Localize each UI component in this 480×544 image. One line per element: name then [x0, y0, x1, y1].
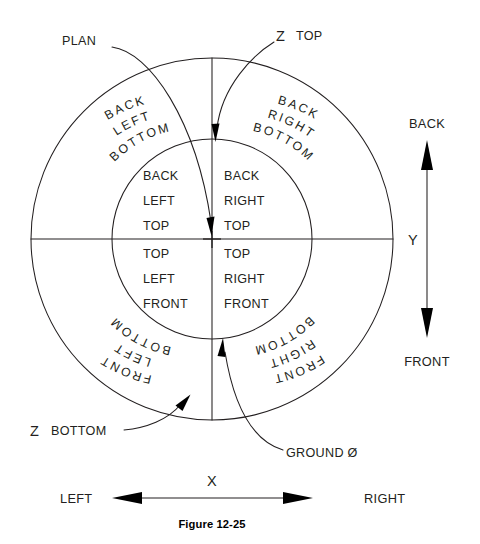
y-axis-arrowhead-up	[421, 140, 433, 170]
outer-quadrant-back-right-bottom: BACK RIGHT BOTTOM	[252, 93, 322, 164]
ground-zero-leader-arrowhead	[218, 338, 226, 357]
quadrant-line: RIGHT	[224, 194, 265, 208]
plan-leader-arrowhead	[207, 217, 215, 237]
figure-caption: Figure 12-25	[178, 518, 245, 530]
x-axis-right-label: RIGHT	[364, 491, 405, 506]
inner-quadrant-top-right-front: TOP RIGHT FRONT	[224, 247, 269, 311]
y-axis-letter: Y	[408, 232, 418, 248]
quadrant-line: TOP	[224, 219, 251, 233]
technical-diagram: PLAN Z TOP Z BOTTOM GROUND Ø BACK LEFT T…	[0, 0, 480, 544]
quadrant-line: LEFT	[143, 272, 175, 286]
x-axis-left-label: LEFT	[60, 491, 93, 506]
callout-z-top-letter: Z	[276, 28, 285, 44]
outer-quadrant-back-left-bottom: BACK LEFT BOTTOM	[102, 93, 172, 164]
x-axis-arrowhead-left	[112, 492, 142, 504]
quadrant-line: RIGHT	[224, 272, 265, 286]
callout-z-bottom-label: BOTTOM	[51, 424, 106, 438]
x-axis-indicator: LEFT RIGHT X	[60, 473, 405, 506]
y-axis-indicator: BACK FRONT Y	[404, 116, 450, 369]
y-axis-back-label: BACK	[409, 116, 445, 131]
callout-z-top-label: TOP	[296, 29, 323, 43]
inner-quadrant-top-left-front: TOP LEFT FRONT	[143, 247, 188, 311]
y-axis-front-label: FRONT	[404, 354, 450, 369]
quadrant-line: TOP	[143, 247, 170, 261]
quadrant-line: LEFT	[143, 194, 175, 208]
inner-quadrant-back-right-top: BACK RIGHT TOP	[224, 169, 265, 233]
callout-plan-label: PLAN	[62, 34, 96, 48]
x-axis-letter: X	[207, 473, 217, 489]
quadrant-line: BACK	[224, 169, 260, 183]
callout-z-bottom-letter: Z	[30, 423, 39, 439]
quadrant-line: TOP	[224, 247, 251, 261]
z-bottom-leader-line	[124, 404, 181, 430]
y-axis-arrowhead-down	[421, 308, 433, 338]
quadrant-line: FRONT	[143, 297, 188, 311]
callout-ground-zero-label: GROUND Ø	[286, 446, 358, 460]
quadrant-line: FRONT	[224, 297, 269, 311]
z-bottom-leader-arrowhead	[176, 395, 191, 412]
inner-quadrant-back-left-top: BACK LEFT TOP	[143, 169, 179, 233]
quadrant-line: TOP	[143, 219, 170, 233]
z-top-leader-line	[217, 42, 274, 128]
quadrant-line: BACK	[143, 169, 179, 183]
figure-container: PLAN Z TOP Z BOTTOM GROUND Ø BACK LEFT T…	[0, 0, 480, 544]
x-axis-arrowhead-right	[283, 492, 313, 504]
